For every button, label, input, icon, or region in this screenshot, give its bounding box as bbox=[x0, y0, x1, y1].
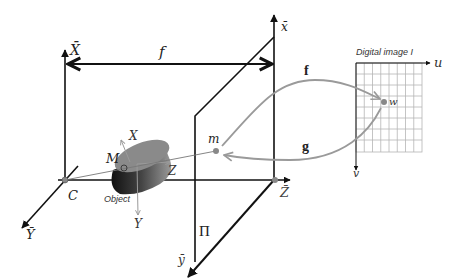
focal-length-label: f bbox=[158, 43, 167, 61]
v-axis-label: v bbox=[353, 167, 360, 180]
x-bar-label: X̄ bbox=[69, 41, 81, 58]
y-bar-label: Ȳ bbox=[26, 227, 36, 242]
digital-image-grid bbox=[356, 63, 422, 152]
object-x-label: X bbox=[128, 129, 138, 143]
object-label: Object bbox=[104, 194, 131, 204]
object-z-label: Z bbox=[167, 164, 177, 178]
map-f-label: f bbox=[304, 63, 309, 78]
u-axis-label: u bbox=[434, 55, 442, 70]
z-bar-origin-point bbox=[272, 177, 278, 183]
pixel-point-label: w bbox=[389, 96, 398, 107]
object-y-label: Y bbox=[134, 217, 143, 231]
plane-label: Π bbox=[199, 223, 210, 239]
digital-image-title: Digital image I bbox=[356, 47, 414, 57]
y-small-bar-label: ȳ bbox=[177, 253, 185, 267]
camera-projection-diagram: X̄ f x̄ C Ȳ M Object X Y Z m Z̄ Π ȳ f g … bbox=[0, 0, 458, 280]
z-bar-label: Z̄ bbox=[279, 185, 290, 200]
x-small-bar-label: x̄ bbox=[281, 20, 288, 34]
object-point-label: M bbox=[105, 151, 120, 166]
pixel-point-w bbox=[381, 99, 387, 105]
image-point-label: m bbox=[208, 132, 219, 146]
camera-center-point bbox=[62, 177, 68, 183]
camera-frame bbox=[22, 50, 290, 228]
map-g-label: g bbox=[302, 139, 309, 154]
image-point-m bbox=[213, 148, 219, 154]
camera-center-label: C bbox=[68, 188, 78, 203]
